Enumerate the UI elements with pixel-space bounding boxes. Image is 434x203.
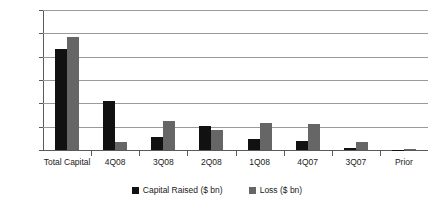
legend-swatch-icon bbox=[132, 187, 139, 194]
bars-wrap bbox=[91, 10, 139, 150]
x-axis-tick-label: 3Q08 bbox=[139, 158, 187, 167]
bars-wrap bbox=[236, 10, 284, 150]
bar-group bbox=[236, 10, 284, 150]
bars-wrap bbox=[380, 10, 428, 150]
x-axis-tick-label: 4Q07 bbox=[284, 158, 332, 167]
bar-capital-raised bbox=[248, 139, 260, 150]
legend-label: Capital Raised ($ bn) bbox=[143, 186, 223, 195]
bar-loss bbox=[67, 37, 79, 150]
x-tick-mark bbox=[236, 151, 237, 156]
bar-group bbox=[284, 10, 332, 150]
x-axis-tick-label: 2Q08 bbox=[187, 158, 235, 167]
bar-loss bbox=[115, 142, 127, 150]
bar-group bbox=[139, 10, 187, 150]
chart-legend: Capital Raised ($ bn)Loss ($ bn) bbox=[0, 186, 434, 195]
bars-wrap bbox=[139, 10, 187, 150]
x-axis-tick-label: Total Capital bbox=[43, 158, 91, 167]
bar-capital-raised bbox=[103, 101, 115, 150]
x-axis-tick-label: 4Q08 bbox=[91, 158, 139, 167]
legend-item[interactable]: Loss ($ bn) bbox=[249, 186, 303, 195]
x-tick-mark bbox=[187, 151, 188, 156]
bar-loss bbox=[163, 121, 175, 150]
bar-capital-raised bbox=[199, 126, 211, 150]
bar-chart: 0.0200.0400.0600.0800.01,000.01,200.0 To… bbox=[0, 0, 434, 203]
x-axis-tick-label: 1Q08 bbox=[236, 158, 284, 167]
bars-wrap bbox=[43, 10, 91, 150]
bar-group bbox=[91, 10, 139, 150]
bar-group bbox=[43, 10, 91, 150]
bar-group bbox=[187, 10, 235, 150]
bars-wrap bbox=[187, 10, 235, 150]
legend-label: Loss ($ bn) bbox=[260, 186, 303, 195]
x-axis-tick-label: 3Q07 bbox=[332, 158, 380, 167]
bar-capital-raised bbox=[296, 141, 308, 150]
legend-swatch-icon bbox=[249, 187, 256, 194]
x-tick-mark bbox=[284, 151, 285, 156]
bars-wrap bbox=[284, 10, 332, 150]
bar-loss bbox=[404, 149, 416, 150]
bar-loss bbox=[260, 123, 272, 150]
bars-wrap bbox=[332, 10, 380, 150]
bar-group bbox=[380, 10, 428, 150]
bar-loss bbox=[211, 130, 223, 150]
x-tick-mark bbox=[139, 151, 140, 156]
x-axis-tick-label: Prior bbox=[380, 158, 428, 167]
bar-capital-raised bbox=[344, 148, 356, 150]
x-tick-mark bbox=[380, 151, 381, 156]
legend-item[interactable]: Capital Raised ($ bn) bbox=[132, 186, 223, 195]
bar-group bbox=[332, 10, 380, 150]
bar-capital-raised bbox=[151, 137, 163, 150]
bar-loss bbox=[356, 142, 368, 150]
bar-loss bbox=[308, 124, 320, 150]
plot-area bbox=[43, 10, 428, 150]
x-tick-mark bbox=[332, 151, 333, 156]
x-tick-mark bbox=[91, 151, 92, 156]
bar-capital-raised bbox=[55, 49, 67, 151]
